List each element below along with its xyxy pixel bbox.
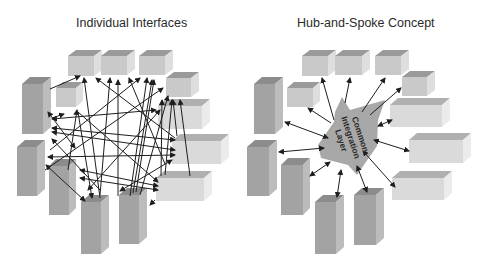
system-block [390,98,450,127]
system-block [302,50,336,76]
system-block [315,195,344,254]
system-block [281,158,310,215]
right-diagram: Common Integration Layer [247,50,471,254]
system-block [68,50,102,76]
system-block [166,72,199,97]
system-block [119,188,147,244]
left-diagram [17,50,229,254]
system-block [402,71,435,96]
system-block [139,50,173,75]
system-block [156,171,212,201]
system-block [22,77,51,134]
system-block [335,50,370,75]
system-block [409,133,471,163]
diagram-canvas: Common Integration Layer [0,0,488,267]
system-block [81,195,109,254]
system-block [247,140,277,196]
system-block [354,188,384,245]
system-block [49,159,76,215]
system-block [375,50,409,75]
system-block [56,82,83,107]
system-block [172,134,229,164]
system-block [392,171,452,200]
system-block [101,50,135,75]
system-block [254,77,283,134]
system-block [17,140,45,196]
system-block [287,82,320,107]
